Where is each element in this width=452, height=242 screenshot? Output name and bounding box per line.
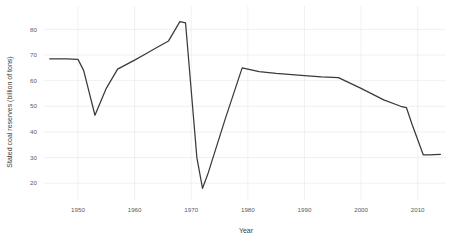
x-tick-label: 1990 (298, 206, 312, 213)
y-tick-label: 80 (30, 26, 37, 33)
y-tick-label: 50 (30, 102, 37, 109)
line-chart: 20304050607080 1950196019701980199020002… (0, 0, 452, 242)
y-tick-label: 40 (30, 128, 37, 135)
x-tick-label: 1970 (184, 206, 198, 213)
x-tick-label: 1950 (71, 206, 85, 213)
y-tick-label: 20 (30, 179, 37, 186)
chart-background (0, 0, 452, 242)
y-tick-label: 60 (30, 77, 37, 84)
y-tick-label: 70 (30, 51, 37, 58)
x-axis-title: Year (239, 227, 254, 234)
x-tick-label: 1960 (128, 206, 142, 213)
x-tick-label: 2000 (354, 206, 368, 213)
x-tick-label: 1980 (241, 206, 255, 213)
x-tick-label: 2010 (411, 206, 425, 213)
y-tick-label: 30 (30, 154, 37, 161)
y-axis-title: Stated coal reserves (billion of tons) (6, 56, 14, 167)
chart-container: 20304050607080 1950196019701980199020002… (0, 0, 452, 242)
